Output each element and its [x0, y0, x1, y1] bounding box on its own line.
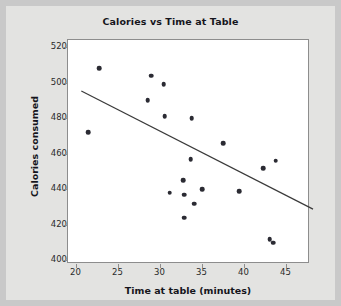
- scatter-point: [192, 201, 197, 206]
- y-tick-label: 520: [41, 41, 67, 51]
- x-tick-label: 45: [273, 267, 297, 277]
- scatter-point: [162, 114, 167, 119]
- x-tick-mark: [160, 264, 161, 268]
- x-tick-label: 25: [105, 267, 129, 277]
- y-tick-label: 500: [41, 77, 67, 87]
- scatter-point: [200, 187, 205, 192]
- scatter-point: [182, 192, 187, 197]
- y-tick-label: 400: [41, 254, 67, 264]
- x-tick-label: 20: [63, 267, 87, 277]
- x-tick-mark: [244, 264, 245, 268]
- scatter-point: [161, 82, 166, 87]
- scatter-point: [188, 157, 193, 162]
- scatter-point: [273, 159, 278, 164]
- scatter-point: [146, 98, 151, 103]
- scatter-point: [221, 141, 226, 146]
- scatter-point: [167, 191, 172, 196]
- x-tick-label: 30: [147, 267, 171, 277]
- y-tick-label: 480: [41, 112, 67, 122]
- x-tick-mark: [118, 264, 119, 268]
- y-tick-label: 440: [41, 183, 67, 193]
- scatter-point: [86, 130, 91, 135]
- x-tick-mark: [286, 264, 287, 268]
- x-tick-mark: [76, 264, 77, 268]
- y-axis-tick-labels: 400420440460480500520: [6, 39, 67, 263]
- scatter-point: [181, 178, 186, 183]
- x-tick-label: 40: [231, 267, 255, 277]
- scatter-point: [261, 166, 266, 171]
- x-axis-tick-labels: 202530354045: [67, 263, 309, 285]
- plot-area: [67, 39, 309, 263]
- scatter-points-layer: [68, 40, 308, 262]
- scatter-point: [237, 189, 242, 194]
- scatter-point: [97, 66, 102, 71]
- x-tick-mark: [202, 264, 203, 268]
- y-tick-label: 460: [41, 148, 67, 158]
- scatter-point: [182, 215, 187, 220]
- y-tick-label: 420: [41, 219, 67, 229]
- chart-figure: Calories vs Time at Table Calories consu…: [6, 6, 335, 300]
- x-tick-label: 35: [189, 267, 213, 277]
- scatter-point: [189, 116, 194, 121]
- scatter-point: [149, 73, 154, 78]
- x-axis-label: Time at table (minutes): [67, 285, 309, 296]
- scatter-point: [271, 240, 276, 245]
- chart-title: Calories vs Time at Table: [6, 16, 335, 27]
